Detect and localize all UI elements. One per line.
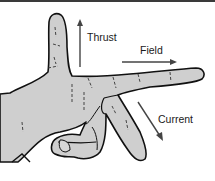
hand-rule-diagram: Thrust Field Current (0, 0, 215, 181)
field-arrow (122, 59, 177, 65)
field-label: Field (140, 45, 163, 56)
thrust-arrow (77, 19, 83, 67)
current-label: Current (158, 114, 193, 125)
hand-illustration (0, 2, 215, 181)
thrust-label: Thrust (87, 32, 117, 43)
